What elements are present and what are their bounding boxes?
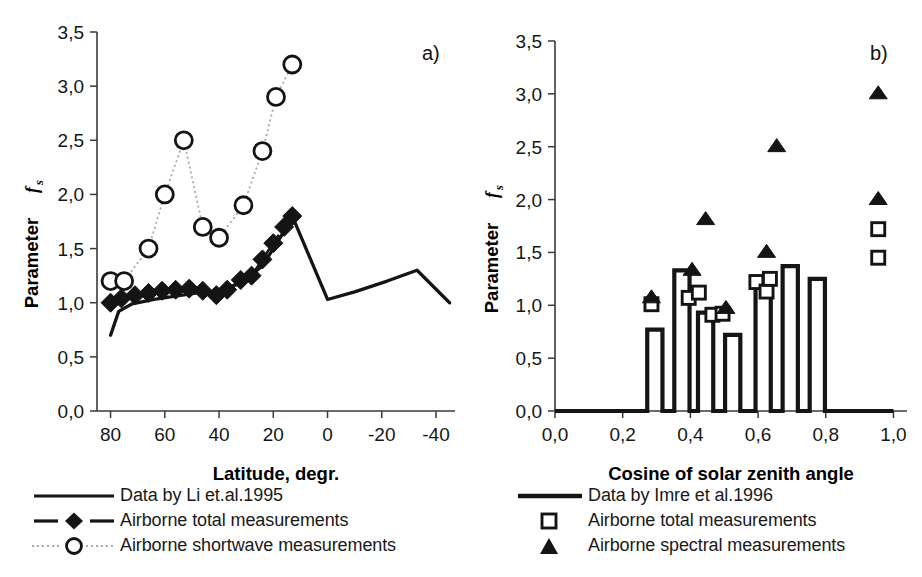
y-tick-label: 2,0 — [58, 184, 84, 205]
y-tick-label: 3,5 — [516, 31, 542, 52]
data-point-open-square — [763, 272, 776, 285]
legend-label-imre1996: Data by Imre et al.1996 — [588, 485, 773, 506]
panel-b-x-axis-title: Cosine of solar zenith angle — [608, 463, 854, 484]
y-tick-label: 1,5 — [516, 242, 542, 263]
panel-a-y-axis-subscript: s — [32, 180, 46, 186]
data-point-open-circle — [284, 56, 301, 73]
legend-row-airborne-total-b: Airborne total measurements — [496, 508, 922, 533]
filled-triangle-key-icon — [496, 535, 588, 557]
y-tick-label: 0,5 — [58, 347, 84, 368]
panel-b-axes — [555, 41, 907, 411]
legend-row-airborne-total-a: Airborne total measurements — [28, 508, 468, 533]
y-tick-label: 0,5 — [516, 348, 542, 369]
legend-label-airborne-spectral: Airborne spectral measurements — [588, 535, 845, 556]
y-tick-label: 2,5 — [516, 137, 542, 158]
solid-line-key-icon — [28, 485, 120, 507]
data-point-open-circle — [116, 273, 133, 290]
panel-a-plot: 0,00,51,01,52,02,53,03,5 806040200-20-40… — [0, 0, 470, 470]
panel-b-series — [555, 86, 893, 411]
data-point-filled-triangle — [768, 139, 786, 152]
panel-b-legend: Data by Imre et al.1996 Airborne total m… — [496, 483, 922, 558]
data-point-open-square — [760, 285, 773, 298]
dotted-line-circle-key-icon — [28, 535, 120, 557]
y-tick-label: 1,5 — [58, 239, 84, 260]
data-point-open-circle — [268, 88, 285, 105]
y-tick-label: 3,0 — [516, 84, 542, 105]
panel-b-y-axis-symbol: f — [482, 190, 502, 198]
panel-a-y-axis-title: Parameter f s — [8, 105, 54, 405]
panel-a-x-axis-title: Latitude, degr. — [213, 463, 339, 484]
data-point-open-square — [872, 223, 885, 236]
figure-container: 0,00,51,01,52,02,53,03,5 806040200-20-40… — [0, 0, 922, 577]
data-point-open-square — [872, 251, 885, 264]
panel-b-y-axis-subscript: s — [492, 185, 506, 191]
legend-label-airborne-total-a: Airborne total measurements — [120, 510, 348, 531]
open-square-key-icon — [496, 510, 588, 532]
data-point-open-circle — [235, 197, 252, 214]
data-point-open-circle — [156, 186, 173, 203]
data-point-filled-triangle — [758, 244, 776, 257]
panel-a-tag: a) — [422, 42, 440, 64]
data-point-open-square — [692, 286, 705, 299]
panel-a-y-axis-symbol: f — [22, 185, 42, 193]
y-tick-label: 2,5 — [58, 130, 84, 151]
solid-line-key-icon-b — [496, 485, 588, 507]
data-point-open-circle — [254, 143, 271, 160]
data-point-open-circle — [194, 218, 211, 235]
legend-row-airborne-spectral: Airborne spectral measurements — [496, 533, 922, 558]
series-line-dotted-line — [111, 64, 293, 281]
legend-row-airborne-shortwave: Airborne shortwave measurements — [28, 533, 468, 558]
data-point-open-circle — [175, 132, 192, 149]
y-tick-label: 3,5 — [58, 22, 84, 43]
panel-b-y-ticks: 0,00,51,01,52,02,53,03,5 — [516, 31, 555, 422]
panel-b-plot: 0,00,51,01,52,02,53,03,5 0,00,20,40,60,8… — [460, 0, 922, 470]
dashed-line-diamond-key-icon — [28, 510, 120, 532]
legend-row-li1995: Data by Li et.al.1995 — [28, 483, 468, 508]
data-point-filled-triangle — [869, 86, 887, 99]
series-line-solid-line — [111, 216, 450, 335]
legend-label-airborne-total-b: Airborne total measurements — [588, 510, 816, 531]
y-tick-label: 3,0 — [58, 76, 84, 97]
panel-b-y-axis-title: Parameter f s — [468, 110, 514, 410]
panel-b-y-axis-title-text: Parameter — [481, 223, 502, 314]
legend-label-li1995: Data by Li et.al.1995 — [120, 485, 283, 506]
panel-b-tag: b) — [870, 42, 888, 64]
data-point-open-circle — [211, 229, 228, 246]
data-point-open-circle — [140, 240, 157, 257]
y-tick-label: 1,0 — [516, 295, 542, 316]
data-point-filled-triangle — [697, 212, 715, 225]
y-tick-label: 1,0 — [58, 293, 84, 314]
panel-a-y-ticks: 0,00,51,01,52,02,53,03,5 — [58, 22, 97, 422]
panel-a-series — [101, 56, 450, 335]
bar-step-outline — [555, 266, 893, 411]
legend-label-airborne-shortwave: Airborne shortwave measurements — [120, 535, 396, 556]
data-point-filled-triangle — [869, 192, 887, 205]
panel-a-y-axis-title-text: Parameter — [21, 218, 42, 309]
legend-row-imre1996: Data by Imre et al.1996 — [496, 483, 922, 508]
panel-a-legend: Data by Li et.al.1995 Airborne total mea… — [28, 483, 468, 558]
y-tick-label: 2,0 — [516, 190, 542, 211]
